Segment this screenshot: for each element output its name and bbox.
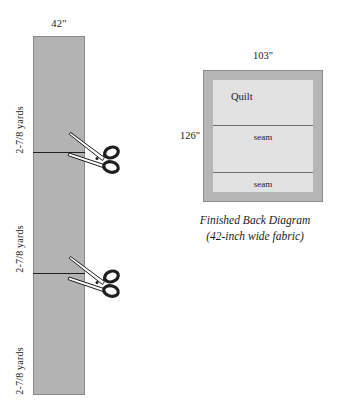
quilt-outer-border: Quilt seam seam — [203, 70, 323, 202]
quilt-left-dimension-label: 126" — [170, 130, 200, 141]
seam-line-2 — [213, 172, 313, 173]
segment-length-label-1: 2-7/8 yards — [14, 70, 25, 190]
fabric-yardage-strip: 42" 2-7/8 yards 2-7/8 yards 2-7/8 yards — [0, 0, 170, 405]
fabric-strip-body — [33, 36, 85, 395]
diagram-canvas: 42" 2-7/8 yards 2-7/8 yards 2-7/8 yards — [0, 0, 340, 405]
seam-label-1: seam — [213, 132, 313, 142]
quilt-panel-label: Quilt — [213, 91, 313, 102]
segment-length-label-3: 2-7/8 yards — [14, 311, 25, 405]
scissors-icon — [66, 128, 128, 182]
finished-back-diagram: 103" 126" Quilt seam seam Finished Back … — [170, 0, 340, 405]
segment-length-label-2: 2-7/8 yards — [14, 189, 25, 309]
seam-line-1 — [213, 125, 313, 126]
scissors-icon — [66, 252, 128, 306]
fabric-width-label: 42" — [33, 18, 85, 29]
caption-line-1: Finished Back Diagram — [175, 212, 335, 228]
caption-line-2: (42-inch wide fabric) — [175, 228, 335, 244]
quilt-top-dimension-label: 103" — [203, 50, 323, 61]
seam-label-2: seam — [213, 179, 313, 189]
quilt-inner-panel: Quilt seam seam — [213, 80, 313, 192]
diagram-caption: Finished Back Diagram (42-inch wide fabr… — [175, 212, 335, 244]
